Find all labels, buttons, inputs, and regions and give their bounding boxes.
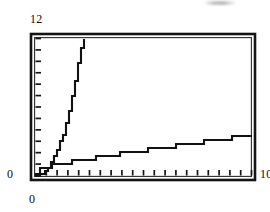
plot-frame (31, 34, 255, 180)
y-axis-ticks (36, 39, 42, 165)
x-axis-ticks (46, 170, 251, 176)
plot-figure: 12 0 0 10 (0, 0, 270, 212)
plot-canvas (0, 0, 270, 212)
steep-growth-curve (36, 39, 84, 177)
